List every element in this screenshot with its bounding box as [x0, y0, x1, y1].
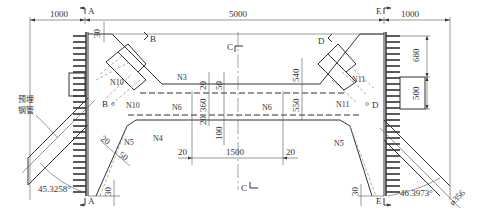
dim-mid-550: 550: [291, 98, 301, 112]
section-b-bottom-label: B: [102, 99, 108, 109]
dim-slope-20: 20: [99, 133, 113, 147]
section-d-bottom-label: D: [372, 100, 379, 110]
section-a-bottom-label: A: [88, 196, 95, 206]
section-mark-e-top: [384, 7, 391, 15]
dim-top-gap-left: 30: [92, 29, 102, 39]
section-e-bottom-label: E: [376, 196, 382, 206]
rebar-label-n11-upper: N11: [352, 75, 365, 84]
dim-bottom-gap-right: 30: [350, 187, 360, 197]
dim-mid-20-bottom: 20: [198, 116, 208, 126]
section-d-bottom-marker: [366, 103, 369, 106]
left-wall-hatch: [73, 36, 86, 192]
left-anchor-block: [96, 44, 146, 104]
dim-mid-50: 50: [214, 81, 224, 91]
rebar-label-n11-lower: N11: [336, 100, 349, 109]
rebar-label-n5-right: N5: [334, 139, 344, 148]
rebar-label-n5-left: N5: [124, 138, 134, 147]
section-d-top-label: D: [318, 36, 325, 46]
dim-right-upper: 680: [411, 48, 421, 62]
section-mark-a-bottom: [80, 198, 85, 207]
dim-total-span: 5000: [229, 9, 248, 19]
dim-mid-20-top: 20: [198, 81, 208, 91]
rebar-n5-right: [350, 126, 376, 196]
section-a-top-label: A: [88, 6, 95, 16]
dim-right-lower: 500: [411, 86, 421, 100]
dim-pipe-diameter: ø356: [447, 187, 467, 207]
dim-mid-100: 100: [214, 126, 224, 140]
dim-angle-left: 45.3258°: [38, 184, 71, 194]
section-mark-e-bottom: [384, 198, 391, 207]
section-b-top-label: B: [150, 34, 156, 44]
section-e-top-label: E: [376, 6, 382, 16]
right-wall: [384, 32, 386, 196]
embedded-pipe-leader: [36, 115, 58, 138]
right-anchor-block: [318, 44, 374, 102]
dim-slope-50: 50: [117, 149, 131, 163]
section-c-top-label: C: [227, 42, 233, 52]
right-wall-hatch: [386, 36, 400, 192]
rebar-label-n3: N3: [177, 73, 187, 82]
upper-outline: [88, 34, 384, 84]
rebar-label-n10-upper: N10: [110, 78, 124, 87]
dim-bottom-20-left: 20: [178, 147, 188, 157]
dim-bottom-gap-left: 30: [103, 187, 113, 197]
embedded-pipe-label-line2: 钢管: [18, 105, 34, 115]
section-mark-a-top: [80, 7, 85, 15]
rebar-label-n4: N4: [153, 134, 163, 143]
section-mark-c-top: [235, 46, 243, 52]
left-wall: [86, 32, 88, 196]
engineering-drawing: 1000 5000 1000 A A E E C C: [0, 0, 481, 213]
section-c-bottom-label: C: [241, 183, 247, 193]
section-mark-c-bottom: [250, 182, 258, 188]
dim-bottom-1500: 1500: [226, 147, 245, 157]
dim-left-offset: 1000: [50, 9, 69, 19]
section-mark-b-top: [144, 32, 148, 40]
dim-mid-540: 540: [291, 68, 301, 82]
dim-angle-right: 46.3973°: [400, 188, 433, 198]
rebar-label-n6-left: N6: [172, 103, 182, 112]
dim-right-offset: 1000: [401, 9, 420, 19]
dim-mid-360: 360: [198, 98, 208, 112]
rebar-label-n10-lower: N10: [126, 101, 140, 110]
embedded-pipe-label-line1: 预埋: [18, 94, 34, 104]
section-mark-d-top: [328, 34, 332, 42]
rebar-label-n6-right: N6: [262, 103, 272, 112]
dim-bottom-20-right: 20: [286, 147, 296, 157]
